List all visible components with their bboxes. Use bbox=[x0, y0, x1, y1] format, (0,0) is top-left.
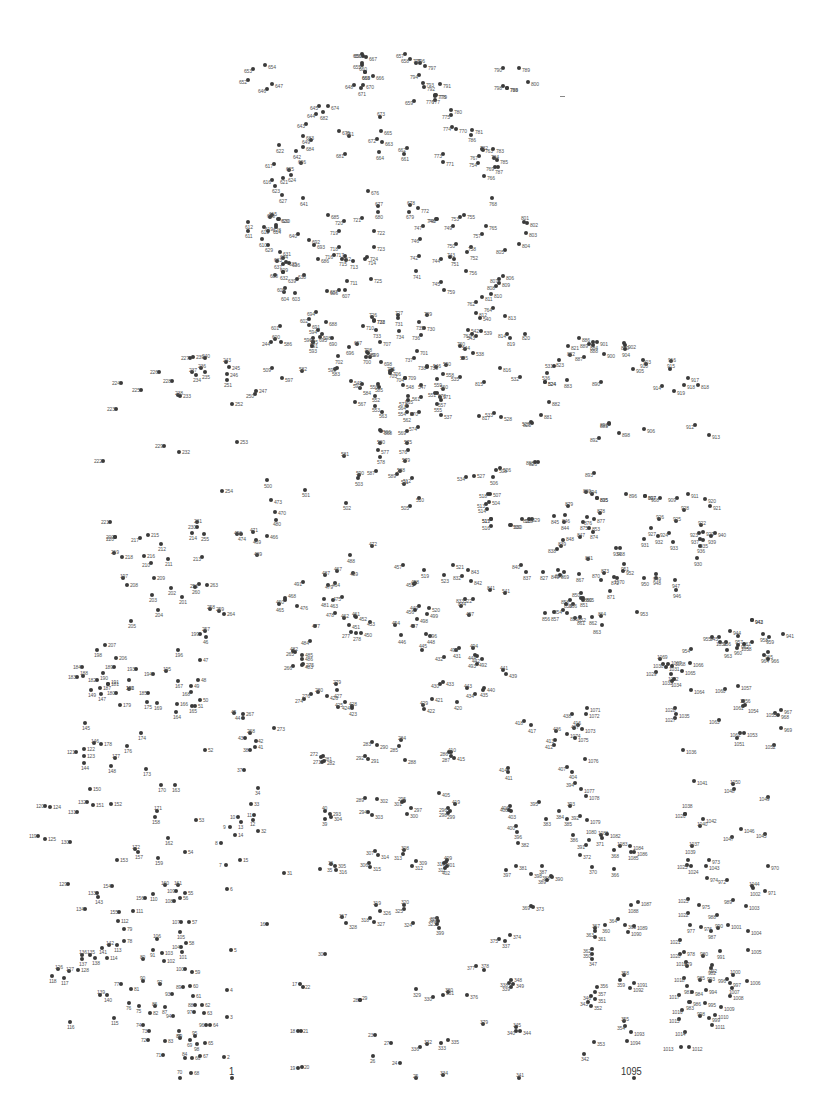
dot-label: 1082 bbox=[610, 834, 620, 839]
dot-point bbox=[629, 903, 633, 907]
dot-label: 158 bbox=[152, 820, 160, 825]
dot-point bbox=[565, 378, 569, 382]
dot-point bbox=[122, 927, 126, 931]
dot-label: 896 bbox=[629, 494, 637, 499]
dot-label: 177 bbox=[112, 754, 120, 759]
dot-point bbox=[674, 712, 678, 716]
dot-label: 88 bbox=[188, 1003, 193, 1008]
dot-label: 818 bbox=[701, 385, 709, 390]
dot-label: 567 bbox=[358, 402, 366, 407]
dot-label: 509 bbox=[263, 368, 271, 373]
dot-label: 931 bbox=[641, 543, 649, 548]
dot-label: 409 bbox=[444, 856, 452, 861]
dot-label: 208 bbox=[130, 583, 138, 588]
dot-point bbox=[99, 742, 103, 746]
dot-label: 798 bbox=[494, 86, 502, 91]
dot-label: 789 bbox=[522, 68, 530, 73]
dot-label: 1087 bbox=[641, 902, 651, 907]
dot-label: 911 bbox=[691, 494, 698, 499]
dot-label: 879 bbox=[565, 502, 573, 507]
dot-label: 215 bbox=[151, 533, 159, 538]
dot-label: 222 bbox=[94, 459, 102, 464]
dot-point bbox=[573, 736, 577, 740]
dot-label: 486 bbox=[305, 657, 313, 662]
dot-label: 375 bbox=[490, 939, 498, 944]
dot-point bbox=[438, 82, 442, 86]
dot-label: 998 bbox=[697, 1012, 705, 1017]
dot-point bbox=[550, 875, 554, 879]
dot-point bbox=[565, 732, 569, 736]
dot-label: 356 bbox=[600, 984, 608, 989]
dot-label: 607 bbox=[342, 294, 350, 299]
dot-label: 91 bbox=[150, 953, 155, 958]
dot-label: 389 bbox=[538, 880, 546, 885]
dot-label: 44 bbox=[235, 716, 240, 721]
dot-label: 488 bbox=[347, 559, 355, 564]
dot-label: 997 bbox=[733, 983, 741, 988]
dot-label: 1025 bbox=[677, 865, 687, 870]
dot-label: 381 bbox=[519, 866, 527, 871]
dot-label: 500 bbox=[264, 484, 272, 489]
dot-label: 108 bbox=[165, 899, 173, 904]
dot-point bbox=[699, 925, 703, 929]
dot-label: 671 bbox=[358, 92, 366, 97]
dot-label: 319 bbox=[373, 901, 381, 906]
dot-point bbox=[482, 174, 486, 178]
dot-label: 1015 bbox=[669, 1019, 679, 1024]
dot-point bbox=[448, 809, 452, 813]
dot-label: 756 bbox=[469, 271, 477, 276]
dot-point bbox=[499, 415, 503, 419]
dot-label: 65 bbox=[208, 1041, 213, 1046]
dot-label: 383 bbox=[543, 822, 551, 827]
dot-label: 79 bbox=[127, 927, 132, 932]
dot-label: 584 bbox=[363, 391, 371, 396]
dot-label: 808 bbox=[487, 286, 495, 291]
dot-point bbox=[608, 589, 612, 593]
dot-label: 18 bbox=[290, 1029, 295, 1034]
dot-label: 67 bbox=[203, 1054, 208, 1059]
dot-point bbox=[265, 534, 269, 538]
dot-label: 1037 bbox=[689, 842, 699, 847]
dot-label: 864 bbox=[598, 612, 606, 617]
dot-point bbox=[707, 433, 711, 437]
dot-label: 2 bbox=[227, 1055, 230, 1060]
dot-label: 700 bbox=[363, 360, 371, 365]
dot-label: 737 bbox=[405, 358, 413, 363]
dot-label: 1078 bbox=[589, 796, 599, 801]
dot-point bbox=[434, 93, 438, 97]
dot-point bbox=[161, 1053, 165, 1057]
dot-label: 142 bbox=[106, 941, 114, 946]
dot-point bbox=[183, 850, 187, 854]
dot-label: 169 bbox=[154, 706, 162, 711]
dot-point bbox=[728, 981, 732, 985]
dot-point bbox=[451, 563, 455, 567]
dot-label: 874 bbox=[590, 535, 598, 540]
dot-label: 71 bbox=[156, 1053, 161, 1058]
dot-label: 1047 bbox=[723, 837, 733, 842]
dot-point bbox=[379, 360, 383, 364]
dot-label: 1008 bbox=[733, 996, 743, 1001]
dot-label: 8 bbox=[215, 841, 218, 846]
dot-point bbox=[618, 546, 622, 550]
dot-label: 721 bbox=[353, 218, 361, 223]
dot-label: 596 bbox=[304, 338, 312, 343]
dot-label: 569 bbox=[398, 431, 406, 436]
dot-point bbox=[623, 347, 627, 351]
dot-point bbox=[593, 990, 597, 994]
dot-label: 512 bbox=[403, 479, 411, 484]
dot-point bbox=[682, 383, 686, 387]
dot-point bbox=[344, 921, 348, 925]
dot-label: 218 bbox=[125, 555, 133, 560]
dot-point bbox=[371, 74, 375, 78]
dot-label: 797 bbox=[428, 66, 436, 71]
dot-label: 40 bbox=[322, 806, 327, 811]
dot-label: 577 bbox=[381, 450, 389, 455]
dot-label: 27 bbox=[384, 1041, 389, 1046]
dot-point bbox=[686, 376, 690, 380]
dot-label: 921 bbox=[713, 506, 721, 511]
dot-point bbox=[718, 949, 722, 953]
dot-label: 928 bbox=[681, 506, 689, 511]
dot-label: 130 bbox=[61, 840, 69, 845]
dot-point bbox=[330, 336, 334, 340]
dot-point bbox=[203, 1041, 207, 1045]
